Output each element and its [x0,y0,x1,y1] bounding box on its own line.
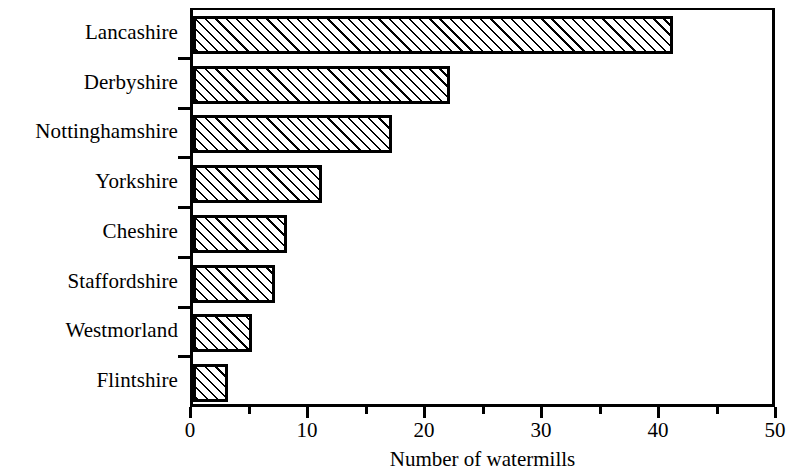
category-label-westmorland: Westmorland [0,320,178,341]
bar-cheshire [193,215,287,253]
bar-lancashire [193,16,673,54]
x-axis-tick-major [540,407,543,418]
bar-row [193,66,778,104]
x-axis-tick-minor [482,407,485,414]
y-axis-tick [178,156,191,159]
category-label-staffordshire: Staffordshire [0,271,178,292]
bar-derbyshire [193,66,450,104]
category-axis-labels: LancashireDerbyshireNottinghamshireYorks… [0,8,178,406]
x-axis-tick-minor [599,407,602,414]
x-axis-title: Number of watermills [190,448,775,470]
x-axis-tick-major [657,407,660,418]
y-axis-tick [178,57,191,60]
bar-flintshire [193,364,228,402]
bar-row [193,16,778,54]
bar-row [193,314,778,352]
bar-westmorland [193,314,252,352]
x-axis-tick-label: 0 [185,420,196,441]
x-axis-tick-major [774,407,777,418]
x-axis-tick-major [189,407,192,418]
y-axis-tick [178,107,191,110]
x-axis-tick-major [306,407,309,418]
category-label-nottinghamshire: Nottinghamshire [0,121,178,142]
bar-nottinghamshire [193,115,392,153]
category-label-cheshire: Cheshire [0,221,178,242]
plot-area [190,8,775,406]
x-axis-tick-label: 10 [297,420,318,441]
y-axis-tick [178,355,191,358]
x-axis-tick-label: 40 [648,420,669,441]
x-axis-tick-label: 30 [531,420,552,441]
y-axis-tick [178,256,191,259]
category-label-lancashire: Lancashire [0,22,178,43]
x-axis-tick-minor [365,407,368,414]
x-axis-tick-major [423,407,426,418]
bar-row [193,215,778,253]
category-label-derbyshire: Derbyshire [0,72,178,93]
y-axis-tick [178,306,191,309]
y-axis-tick [178,206,191,209]
bar-staffordshire [193,265,275,303]
category-label-yorkshire: Yorkshire [0,171,178,192]
bar-row [193,265,778,303]
x-axis-tick-minor [716,407,719,414]
x-axis-tick-label: 20 [414,420,435,441]
x-axis-tick-minor [248,407,251,414]
x-axis-tick-label: 50 [765,420,786,441]
bar-row [193,165,778,203]
bar-yorkshire [193,165,322,203]
watermills-bar-chart: LancashireDerbyshireNottinghamshireYorks… [0,0,799,474]
category-label-flintshire: Flintshire [0,370,178,391]
bar-row [193,115,778,153]
bar-row [193,364,778,402]
